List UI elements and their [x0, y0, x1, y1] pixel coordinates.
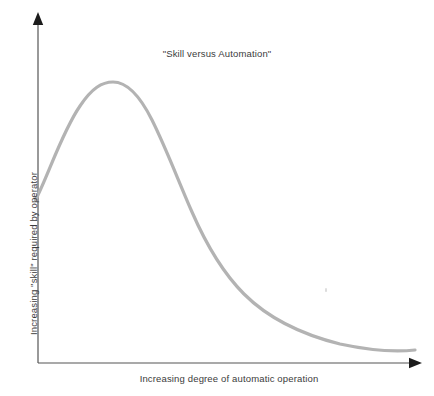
skill-curve [36, 82, 416, 351]
chart-plot-area [0, 0, 434, 396]
x-axis-arrowhead [409, 358, 422, 368]
chart-title: "Skill versus Automation" [0, 48, 434, 59]
x-axis-label: Increasing degree of automatic operation [38, 373, 420, 384]
y-axis-label: Increasing "skill" required by operator [28, 35, 39, 335]
chart-figure: "Skill versus Automation" Increasing deg… [0, 0, 434, 396]
scan-artifact-speck [325, 288, 327, 292]
y-axis-arrowhead [33, 12, 43, 25]
